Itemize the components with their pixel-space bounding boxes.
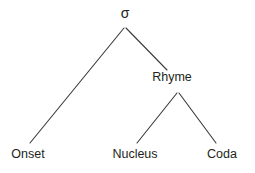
node-nucleus: Nucleus <box>112 148 157 161</box>
edge-sigma-onset <box>30 28 124 143</box>
node-rhyme: Rhyme <box>152 71 192 84</box>
edge-sigma-rhyme <box>126 28 167 70</box>
node-onset: Onset <box>11 148 44 161</box>
edge-rhyme-coda <box>179 93 216 143</box>
edge-rhyme-nucleus <box>137 93 177 143</box>
syllable-tree-diagram: σ Rhyme Onset Nucleus Coda <box>0 0 255 173</box>
node-coda: Coda <box>207 148 237 161</box>
node-sigma: σ <box>121 6 130 20</box>
